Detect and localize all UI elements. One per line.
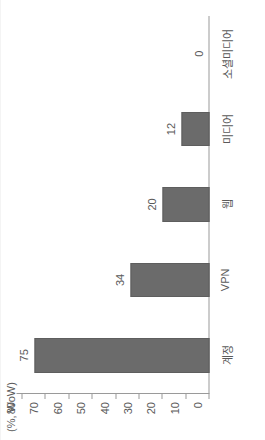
category-label: VPN <box>218 269 230 292</box>
axis-tick-label: 70 <box>27 402 39 414</box>
axis-tick-mark <box>161 394 162 399</box>
bar-series: 75계정34VPN20웹12미디어0소셜미디어 <box>22 16 209 393</box>
bar-value-label: 20 <box>146 198 157 210</box>
bar-group: 20웹 <box>22 167 209 242</box>
axis-tick-mark <box>21 394 22 399</box>
bar-value-label: 75 <box>18 349 29 361</box>
axis-tick-label: 80 <box>4 402 16 414</box>
axis-tick-label: 0 <box>191 402 203 408</box>
bar-group: 34VPN <box>22 242 209 317</box>
bar-rect[interactable] <box>181 112 209 147</box>
bar-value-label: 0 <box>193 51 204 57</box>
axis-tick-mark <box>44 394 45 399</box>
axis-tick-mark <box>115 394 116 399</box>
bar-rect[interactable] <box>162 187 209 222</box>
axis-tick-mark <box>91 394 92 399</box>
axis-tick-label: 10 <box>168 402 180 414</box>
axis-tick-label: 20 <box>144 402 156 414</box>
bar-value-label: 12 <box>165 123 176 135</box>
category-label: 소셜미디어 <box>218 29 234 79</box>
bar-value-label: 34 <box>114 274 125 286</box>
axis-tick-mark <box>208 394 209 399</box>
bar-chart: (%, WoW) 80706050403020100 75계정34VPN20웹1… <box>0 0 265 440</box>
axis-tick-label: 60 <box>51 402 63 414</box>
bar-rect[interactable] <box>130 263 209 298</box>
chart-canvas: (%, WoW) 80706050403020100 75계정34VPN20웹1… <box>0 0 265 440</box>
axis-tick-label: 40 <box>98 402 110 414</box>
axis-tick-mark <box>68 394 69 399</box>
bar-group: 12미디어 <box>22 91 209 166</box>
axis-tick-mark <box>185 394 186 399</box>
axis-tick-mark <box>138 394 139 399</box>
category-label: 계정 <box>218 345 234 365</box>
axis-tick-label: 30 <box>121 402 133 414</box>
bar-rect[interactable] <box>34 338 209 373</box>
category-label: 미디어 <box>218 114 234 144</box>
bar-group: 0소셜미디어 <box>22 16 209 91</box>
axis-tick-label: 50 <box>74 402 86 414</box>
bar-group: 75계정 <box>22 318 209 393</box>
plot-area: 80706050403020100 75계정34VPN20웹12미디어0소셜미디… <box>22 16 209 394</box>
category-label: 웹 <box>218 199 234 209</box>
